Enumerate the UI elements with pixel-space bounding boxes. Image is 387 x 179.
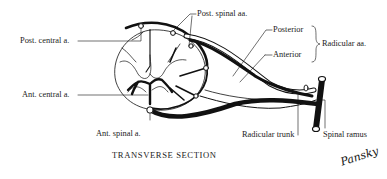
label-post-central-artery: Post. central a. (20, 36, 69, 46)
label-posterior: Posterior (273, 25, 303, 35)
label-post-spinal-arteries: Post. spinal aa. (197, 9, 247, 19)
label-spinal-ramus: Spinal ramus (323, 130, 367, 140)
label-radicular-arteries: Radicular aa. (322, 39, 366, 49)
label-ant-spinal-artery: Ant. spinal a. (96, 129, 141, 139)
spinal-ramus-vessel (316, 80, 322, 128)
caption-transverse-section: TRANSVERSE SECTION (112, 150, 217, 160)
label-ant-central-artery: Ant. central a. (22, 90, 69, 100)
label-anterior: Anterior (273, 50, 301, 60)
label-radicular-trunk: Radicular trunk (242, 130, 294, 140)
